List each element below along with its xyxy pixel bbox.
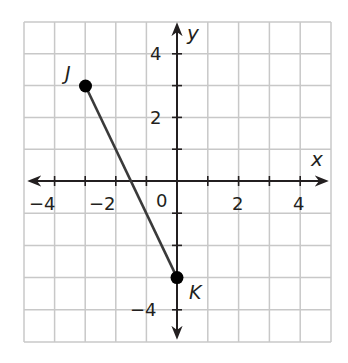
y-axis-label: y xyxy=(186,21,200,45)
coordinate-plane: J K y x 0 −4 −2 2 4 4 2 −4 xyxy=(0,0,348,363)
point-j xyxy=(79,80,92,93)
tick-label-x-neg2: −2 xyxy=(89,193,116,214)
origin-label: 0 xyxy=(156,190,167,211)
tick-label-y-2: 2 xyxy=(150,107,161,128)
tick-label-y-neg4: −4 xyxy=(130,299,157,320)
tick-label-y-4: 4 xyxy=(150,43,161,64)
tick-label-x-neg4: −4 xyxy=(29,193,56,214)
point-k-label: K xyxy=(189,281,203,303)
point-j-label: J xyxy=(61,62,71,84)
x-axis-label: x xyxy=(310,147,323,171)
axes xyxy=(30,25,326,337)
point-k xyxy=(171,271,184,284)
tick-label-x-4: 4 xyxy=(293,193,304,214)
tick-label-x-2: 2 xyxy=(232,193,243,214)
